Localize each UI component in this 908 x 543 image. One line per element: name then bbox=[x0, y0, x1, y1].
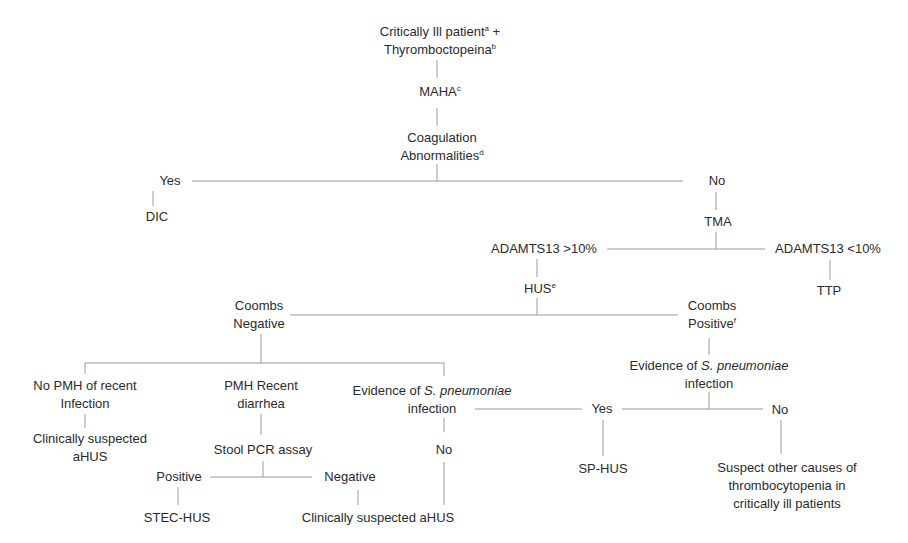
evidence-mid-organism: S. pneumoniae bbox=[424, 383, 511, 398]
node-no-coag: No bbox=[709, 172, 726, 190]
no-mid-label: No bbox=[436, 442, 453, 457]
node-yes-sp: Yes bbox=[591, 400, 612, 418]
root-label-line1: Critically Ill patient bbox=[380, 24, 485, 39]
other-causes-line3: critically ill patients bbox=[733, 496, 841, 511]
coombs-pos-line1: Coombs bbox=[688, 298, 736, 313]
coombs-neg-line1: Coombs bbox=[235, 298, 283, 313]
yes-label: Yes bbox=[159, 173, 180, 188]
evidence-right-line2: infection bbox=[685, 376, 733, 391]
node-pcr-negative: Negative bbox=[324, 468, 375, 486]
node-coombs-negative: Coombs Negative bbox=[233, 297, 284, 333]
node-hus: HUSe bbox=[524, 280, 556, 298]
node-adamts13-high: ADAMTS13 >10% bbox=[491, 240, 597, 258]
footnote-e: e bbox=[552, 281, 556, 290]
clin-susp-left-line1: Clinically suspected bbox=[33, 431, 147, 446]
hus-label: HUS bbox=[524, 281, 551, 296]
node-adamts13-low: ADAMTS13 <10% bbox=[775, 240, 881, 258]
tma-label: TMA bbox=[704, 214, 731, 229]
other-causes-line2: thrombocytopenia in bbox=[728, 478, 845, 493]
stool-pcr-label: Stool PCR assay bbox=[214, 442, 312, 457]
other-causes-line1: Suspect other causes of bbox=[717, 460, 856, 475]
node-coombs-positive: Coombs Positivef bbox=[688, 297, 736, 333]
footnote-b: b bbox=[492, 42, 496, 51]
ttp-label: TTP bbox=[817, 283, 842, 298]
node-stec-hus: STEC-HUS bbox=[144, 509, 210, 527]
clin-susp-bottom-label: Clinically suspected aHUS bbox=[302, 510, 454, 525]
footnote-c: c bbox=[457, 84, 461, 93]
root-label-line2: Thyromboctopeina bbox=[384, 42, 492, 57]
pcr-positive-label: Positive bbox=[156, 469, 202, 484]
evidence-right-organism: S. pneumoniae bbox=[701, 358, 788, 373]
no-label: No bbox=[709, 173, 726, 188]
node-no-mid: No bbox=[436, 441, 453, 459]
node-pmh-recent-diarrhea: PMH Recent diarrhea bbox=[224, 377, 298, 413]
pmh-diarrhea-line1: PMH Recent bbox=[224, 378, 298, 393]
footnote-d: d bbox=[479, 148, 483, 157]
node-coagulation-abnormalities: Coagulation Abnormalitiesd bbox=[400, 129, 483, 165]
node-sp-hus: SP-HUS bbox=[578, 460, 627, 478]
pmh-diarrhea-line2: diarrhea bbox=[237, 396, 285, 411]
root-plus: + bbox=[489, 24, 500, 39]
evidence-mid-prefix: Evidence of bbox=[353, 383, 425, 398]
node-maha: MAHAc bbox=[419, 83, 461, 101]
evidence-right-prefix: Evidence of bbox=[630, 358, 702, 373]
dic-label: DIC bbox=[146, 209, 168, 224]
yes-sp-label: Yes bbox=[591, 401, 612, 416]
node-pcr-positive: Positive bbox=[156, 468, 202, 486]
node-no-sp: No bbox=[772, 401, 789, 419]
coag-label-line2: Abnormalities bbox=[400, 148, 479, 163]
node-evidence-sp-mid: Evidence of S. pneumoniae infection bbox=[353, 382, 512, 418]
node-evidence-sp-right: Evidence of S. pneumoniae infection bbox=[630, 357, 789, 393]
node-clinically-suspected-ahus-bottom: Clinically suspected aHUS bbox=[302, 509, 454, 527]
footnote-f: f bbox=[734, 316, 736, 325]
node-yes-coag: Yes bbox=[159, 172, 180, 190]
node-suspect-other-causes: Suspect other causes of thrombocytopenia… bbox=[717, 459, 856, 513]
node-ttp: TTP bbox=[817, 282, 842, 300]
no-pmh-line1: No PMH of recent bbox=[33, 378, 136, 393]
node-critically-ill-patient: Critically Ill patienta + Thyromboctopei… bbox=[380, 23, 500, 59]
node-tma: TMA bbox=[704, 213, 731, 231]
coag-label-line1: Coagulation bbox=[407, 130, 476, 145]
adamts-low-label: ADAMTS13 <10% bbox=[775, 241, 881, 256]
node-clinically-suspected-ahus-left: Clinically suspected aHUS bbox=[33, 430, 147, 466]
node-no-pmh-infection: No PMH of recent Infection bbox=[33, 377, 136, 413]
maha-label: MAHA bbox=[419, 84, 457, 99]
coombs-neg-line2: Negative bbox=[233, 316, 284, 331]
evidence-mid-line2: infection bbox=[408, 401, 456, 416]
stec-hus-label: STEC-HUS bbox=[144, 510, 210, 525]
no-pmh-line2: Infection bbox=[60, 396, 109, 411]
node-stool-pcr-assay: Stool PCR assay bbox=[214, 441, 312, 459]
pcr-negative-label: Negative bbox=[324, 469, 375, 484]
clin-susp-left-line2: aHUS bbox=[73, 449, 108, 464]
adamts-high-label: ADAMTS13 >10% bbox=[491, 241, 597, 256]
node-dic: DIC bbox=[146, 208, 168, 226]
coombs-pos-line2: Positive bbox=[688, 316, 734, 331]
sp-hus-label: SP-HUS bbox=[578, 461, 627, 476]
no-sp-label: No bbox=[772, 402, 789, 417]
